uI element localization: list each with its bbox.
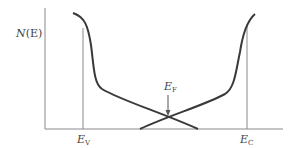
ef-label: EF	[164, 81, 177, 94]
valence-band-curve	[73, 13, 198, 129]
density-of-states-diagram	[0, 0, 297, 148]
y-axis-label: N(E)	[16, 28, 42, 39]
ev-label: EV	[77, 134, 90, 147]
ec-label: EC	[240, 134, 253, 147]
